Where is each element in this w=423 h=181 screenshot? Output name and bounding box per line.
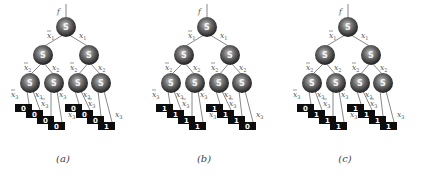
edge-label-x3-neg: x3	[88, 99, 95, 109]
s-node-level2: S	[220, 45, 240, 65]
edge-label-x2: x2	[334, 63, 341, 73]
leaf-value: 0	[303, 105, 308, 113]
edge-label-x3-neg: x3	[59, 90, 66, 100]
leaf-value: 0	[71, 105, 76, 113]
edge-label-x2: x2	[52, 63, 59, 73]
s-node-level3: S	[185, 73, 205, 93]
s-node-level2: S	[33, 45, 53, 65]
s-node-level3: S	[91, 73, 111, 93]
edge-label-x2-neg: x2	[306, 63, 313, 73]
panel-caption: (c)	[338, 153, 352, 164]
s-node-label: S	[181, 51, 187, 60]
edge-label-x2: x2	[239, 63, 246, 73]
s-node-label: S	[27, 79, 33, 88]
edge	[98, 91, 101, 116]
leaf-terminal: 0	[239, 122, 256, 131]
s-node-label: S	[216, 79, 222, 88]
edge-label-x2: x2	[193, 63, 200, 73]
leaf-value: 0	[32, 111, 37, 119]
s-node-label: S	[368, 51, 374, 60]
s-node-label: S	[309, 79, 315, 88]
panel-c: fx1x1x2x2x2x2x3x3x3x3x3x3x3x3SSSSSSS0111…	[293, 4, 404, 164]
leaf-value: 0	[245, 123, 250, 131]
leaf-value: 1	[223, 111, 228, 119]
s-node-root: S	[338, 17, 358, 37]
s-node-level3: S	[209, 73, 229, 93]
leaf-value: 0	[82, 111, 87, 119]
edge	[168, 91, 170, 104]
s-node-label: S	[40, 51, 46, 60]
s-node-level3: S	[20, 73, 40, 93]
s-node-level3: S	[161, 73, 181, 93]
edge-label-x1-neg: x1	[47, 31, 54, 41]
s-node-root: S	[56, 17, 76, 37]
shannon-tree-figure: fx1x1x2x2x2x2x3x3x3x3x3x3x3x3SSSSSSS0000…	[0, 0, 423, 181]
s-node-level2: S	[315, 45, 335, 65]
leaf-value: 1	[364, 111, 369, 119]
edge-label-x3-neg: x3	[370, 99, 377, 109]
s-node-label: S	[333, 79, 339, 88]
output-label-f: f	[338, 7, 343, 16]
s-node-level3: S	[302, 73, 322, 93]
leaf-value: 1	[173, 111, 178, 119]
s-node-label: S	[380, 79, 386, 88]
edge-label-x3-neg: x3	[11, 90, 18, 100]
s-node-label: S	[239, 79, 245, 88]
edge-label-x1-neg: x1	[329, 31, 336, 41]
leaf-value: 1	[325, 117, 330, 125]
edge	[239, 91, 242, 116]
edge-label-x2-neg: x2	[352, 63, 359, 73]
s-node-label: S	[75, 79, 81, 88]
leaf-value: 1	[104, 123, 109, 131]
panel-b: fx1x1x2x2x2x2x3x3x3x3x3x3x3x3SSSSSSS1111…	[152, 4, 263, 164]
edge	[386, 91, 394, 122]
edge	[104, 91, 112, 122]
s-node-label: S	[86, 51, 92, 60]
leaf-value: 1	[353, 105, 358, 113]
edge	[245, 91, 253, 122]
leaf-terminal: 0	[48, 122, 65, 131]
s-node-level3: S	[373, 73, 393, 93]
edge-label-x1: x1	[361, 31, 368, 41]
edge-label-x3-neg: x3	[182, 99, 189, 109]
s-node-label: S	[51, 79, 57, 88]
edge-label-x3-neg: x3	[200, 90, 207, 100]
s-node-label: S	[357, 79, 363, 88]
edge-label-x3-neg: x3	[323, 99, 330, 109]
leaf-terminal: 1	[380, 122, 397, 131]
output-label-f: f	[197, 7, 202, 16]
s-node-level3: S	[68, 73, 88, 93]
edge	[309, 91, 311, 104]
s-node-label: S	[192, 79, 198, 88]
s-node-level2: S	[174, 45, 194, 65]
edge-label-x2-neg: x2	[70, 63, 77, 73]
s-node-level2: S	[361, 45, 381, 65]
output-label-f: f	[56, 7, 61, 16]
s-node-level3: S	[232, 73, 252, 93]
edge-label-x2: x2	[98, 63, 105, 73]
panel-caption: (a)	[56, 153, 70, 164]
s-node-root: S	[197, 17, 217, 37]
panel-caption: (b)	[197, 153, 211, 164]
s-node-label: S	[345, 23, 351, 32]
leaf-value: 1	[234, 117, 239, 125]
leaf-value: 1	[375, 117, 380, 125]
edge-label-x1: x1	[220, 31, 227, 41]
edge-label-x3-neg: x3	[293, 90, 300, 100]
edge-label-x3: x3	[397, 110, 404, 120]
s-node-label: S	[204, 23, 210, 32]
s-node-level3: S	[350, 73, 370, 93]
leaf-value: 0	[54, 123, 59, 131]
edge-label-x3: x3	[256, 110, 263, 120]
leaf-value: 0	[43, 117, 48, 125]
leaf-value: 1	[184, 117, 189, 125]
leaf-value: 1	[386, 123, 391, 131]
edge-label-x1-neg: x1	[188, 31, 195, 41]
edge-label-x2-neg: x2	[211, 63, 218, 73]
edge-label-x3-neg: x3	[41, 99, 48, 109]
s-node-label: S	[322, 51, 328, 60]
leaf-value: 1	[162, 105, 167, 113]
edge	[27, 91, 29, 104]
edge-label-x2-neg: x2	[165, 63, 172, 73]
leaf-value: 1	[195, 123, 200, 131]
